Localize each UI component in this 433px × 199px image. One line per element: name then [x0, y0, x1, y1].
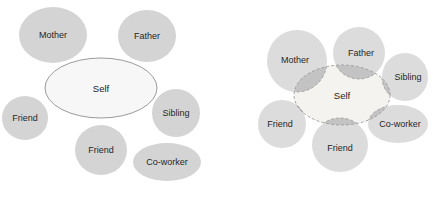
node-label-self: Self [334, 90, 351, 101]
node-label-self: Self [93, 83, 110, 94]
node-sibling-left[interactable]: Sibling [152, 89, 200, 137]
node-label-coworker: Co-worker [379, 119, 421, 129]
social-network-figure: Mother Father Friend Sibling Friend [0, 0, 433, 199]
node-friend-left-west[interactable]: Friend [2, 96, 48, 140]
node-label-father: Father [348, 48, 374, 58]
node-label-friend-south: Friend [327, 143, 353, 153]
node-label-mother: Mother [281, 55, 309, 65]
node-label-friend-south: Friend [88, 145, 114, 155]
node-father-left[interactable]: Father [118, 10, 176, 62]
node-label-sibling: Sibling [394, 72, 421, 82]
node-coworker-left[interactable]: Co-worker [133, 143, 201, 181]
node-mother-left[interactable]: Mother [19, 7, 87, 63]
node-self-left[interactable]: Self [45, 58, 157, 118]
node-label-coworker: Co-worker [146, 157, 188, 167]
node-label-sibling: Sibling [162, 108, 189, 118]
node-friend-left-south[interactable]: Friend [75, 125, 127, 175]
node-label-friend-west: Friend [12, 113, 38, 123]
figure-canvas: Mother Father Friend Sibling Friend [0, 0, 433, 199]
node-label-father: Father [134, 31, 160, 41]
node-label-friend-west: Friend [267, 119, 293, 129]
node-label-mother: Mother [39, 30, 67, 40]
